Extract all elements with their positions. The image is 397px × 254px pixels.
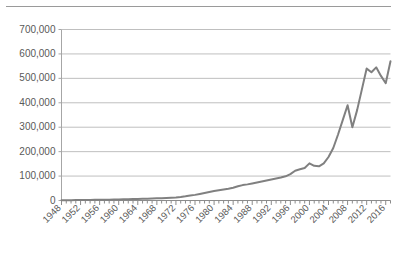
chart-figure: 0100,000200,000300,000400,000500,000600,… — [0, 0, 397, 254]
x-tick-label: 2004 — [307, 202, 330, 225]
data-series-line — [62, 61, 391, 200]
x-tick-label: 1980 — [193, 202, 216, 225]
y-tick-label: 700,000 — [19, 24, 56, 35]
x-axis-tick-labels: 1948195219561960196419681972197619801984… — [40, 202, 387, 225]
y-axis-tick-labels: 0100,000200,000300,000400,000500,000600,… — [19, 24, 56, 206]
y-tick-label: 100,000 — [19, 170, 56, 181]
x-tick-label: 1948 — [40, 202, 63, 225]
x-tick-label: 1956 — [78, 202, 101, 225]
x-tick-label: 1976 — [174, 202, 197, 225]
x-tick-label: 1992 — [250, 202, 273, 225]
x-tick-label: 1988 — [231, 202, 254, 225]
x-tick-label: 1972 — [155, 202, 178, 225]
y-tick-label: 300,000 — [19, 121, 56, 132]
x-tick-label: 1984 — [212, 202, 235, 225]
x-tick-label: 1960 — [97, 202, 120, 225]
y-tick-label: 500,000 — [19, 72, 56, 83]
x-tick-label: 2012 — [345, 202, 368, 225]
x-tick-label: 1952 — [59, 202, 82, 225]
x-tick-label: 2000 — [288, 202, 311, 225]
y-tick-label: 200,000 — [19, 146, 56, 157]
x-tick-label: 1964 — [116, 202, 139, 225]
line-chart-plot: 0100,000200,000300,000400,000500,000600,… — [0, 0, 397, 254]
x-tick-label: 2016 — [364, 202, 387, 225]
y-tick-label: 400,000 — [19, 97, 56, 108]
gridlines-group — [62, 30, 391, 201]
series-line — [62, 61, 391, 200]
x-tick-label: 2008 — [326, 202, 349, 225]
x-tick-label: 1968 — [136, 202, 159, 225]
y-tick-label: 600,000 — [19, 48, 56, 59]
x-tick-label: 1996 — [269, 202, 292, 225]
